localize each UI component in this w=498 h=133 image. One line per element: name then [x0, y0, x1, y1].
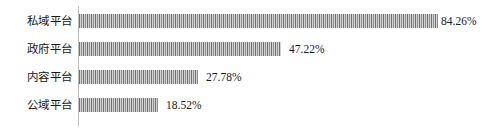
bar-row: 私域平台 84.26%	[0, 14, 498, 28]
bar-private-domain-platform	[79, 14, 438, 28]
bar-row: 内容平台 27.78%	[0, 70, 498, 84]
bar-content-platform	[79, 70, 198, 84]
category-label: 私域平台	[0, 11, 72, 31]
bar-government-platform	[79, 42, 281, 56]
category-label: 内容平台	[0, 67, 72, 87]
bar-value-label: 27.78%	[206, 67, 241, 87]
bar-value-label: 84.26%	[441, 11, 476, 31]
bar-value-label: 47.22%	[289, 39, 324, 59]
bar-row: 政府平台 47.22%	[0, 42, 498, 56]
bar-series: 私域平台 84.26% 政府平台 47.22% 内容平台 27.78% 公域平台…	[0, 0, 498, 133]
bar-row: 公域平台 18.52%	[0, 98, 498, 112]
bar-chart: 私域平台 84.26% 政府平台 47.22% 内容平台 27.78% 公域平台…	[0, 0, 498, 133]
category-label: 公域平台	[0, 95, 72, 115]
bar-public-domain-platform	[79, 98, 158, 112]
bar-value-label: 18.52%	[166, 95, 201, 115]
category-label: 政府平台	[0, 39, 72, 59]
